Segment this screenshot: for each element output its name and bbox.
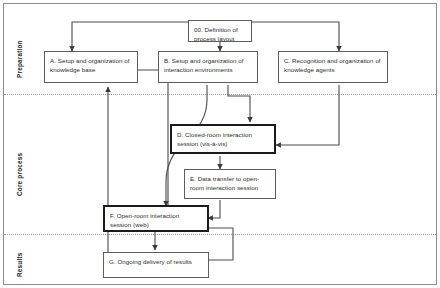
node-e-label: E. Data transfer to open-room interactio…: [190, 175, 259, 191]
node-a-setup-knowledge-base[interactable]: A. Setup and organization of knowledge b…: [44, 51, 138, 83]
node-b-label: B. Setup and organization of interaction…: [164, 57, 244, 73]
node-d-closed-room-interaction-session[interactable]: D. Closed-room interaction session (vis-…: [170, 124, 276, 154]
node-g-label: G. Ongoing delivery of results: [109, 258, 192, 265]
node-00-definition-of-process-layout[interactable]: 00. Definition of process layout: [188, 20, 252, 42]
band-label-preparation: Preparation: [16, 40, 23, 78]
band-divider-preparation-core: [4, 94, 436, 95]
node-e-data-transfer[interactable]: E. Data transfer to open-room interactio…: [184, 169, 276, 199]
node-f-label: F. Open-room interaction session (web): [110, 212, 179, 228]
node-f-open-room-interaction-session[interactable]: F. Open-room interaction session (web): [103, 205, 209, 232]
node-c-recognition-knowledge-agents[interactable]: C. Recognition and organization of knowl…: [278, 51, 388, 83]
diagram-canvas: Preparation Core process Results 00. Def…: [0, 0, 440, 288]
node-b-setup-interaction-environments[interactable]: B. Setup and organization of interaction…: [158, 51, 258, 83]
band-label-results: Results: [16, 253, 23, 278]
band-label-core-process: Core process: [16, 153, 23, 196]
node-a-label: A. Setup and organization of knowledge b…: [50, 57, 130, 73]
node-g-ongoing-delivery-of-results[interactable]: G. Ongoing delivery of results: [103, 252, 209, 278]
node-d-label: D. Closed-room interaction session (vis-…: [177, 131, 252, 147]
node-00-label: 00. Definition of process layout: [194, 26, 238, 42]
band-divider-core-results: [4, 234, 436, 235]
node-c-label: C. Recognition and organization of knowl…: [284, 57, 381, 73]
